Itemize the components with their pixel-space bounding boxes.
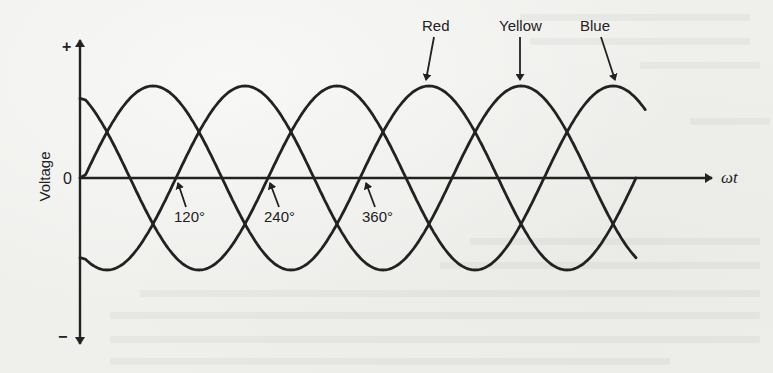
angle-label-360: 360° [362, 209, 393, 224]
marker-240-arrow-icon [270, 183, 279, 207]
yellow-phase-label: Yellow [499, 18, 542, 33]
y-axis-label: Voltage [37, 147, 52, 207]
x-axis-label: ωt [721, 169, 738, 186]
red-arrow-icon [426, 37, 434, 80]
blue-arrow-icon [601, 37, 615, 80]
y-axis-negative-sign: − [58, 329, 67, 345]
figure-page: + − 0 Voltage ωt Red Yellow Blue 120° 24… [0, 0, 773, 373]
marker-120-arrow-icon [178, 183, 186, 207]
three-phase-waveform-diagram [0, 0, 773, 373]
angle-label-240: 240° [264, 209, 295, 224]
red-phase-label: Red [422, 18, 450, 33]
angle-label-120: 120° [174, 209, 205, 224]
y-axis-positive-sign: + [62, 39, 71, 55]
zero-label: 0 [63, 171, 72, 187]
blue-phase-label: Blue [580, 18, 610, 33]
marker-360-arrow-icon [366, 183, 375, 207]
